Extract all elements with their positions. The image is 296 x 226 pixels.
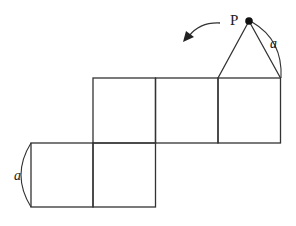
edge-arc-left [21, 143, 31, 207]
square-top-2 [156, 78, 219, 143]
square-bottom-2 [93, 143, 156, 207]
point-p-dot [245, 17, 253, 25]
square-bottom-1 [31, 143, 93, 207]
edge-label-top: a [270, 36, 277, 51]
net-diagram: P a a [0, 0, 296, 226]
square-top-3 [218, 78, 281, 143]
square-top-1 [93, 78, 156, 143]
point-p-label: P [230, 12, 238, 28]
edge-label-left: a [14, 168, 21, 183]
rotation-arrow [189, 23, 220, 36]
